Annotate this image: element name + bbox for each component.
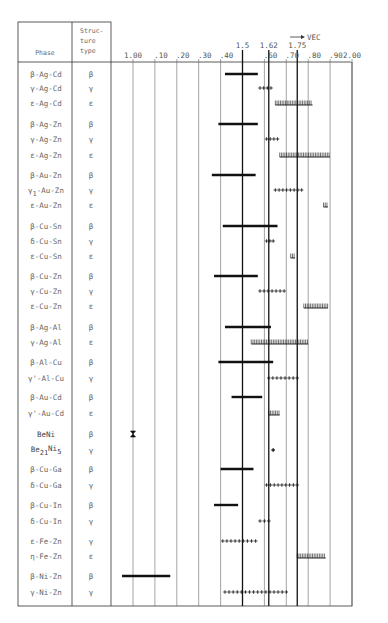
structure-type-label: β — [89, 70, 94, 79]
header-structure-type: Struc- — [80, 27, 103, 35]
phase-label: γ-Cu-Zn — [30, 287, 62, 296]
tick-label: .90 — [329, 51, 343, 60]
structure-type-label: β — [89, 323, 94, 332]
header-structure-type: type — [80, 47, 96, 55]
phase-label: γ-Ag-Al — [30, 338, 62, 347]
tick-label: .10 — [154, 51, 168, 60]
phase-label: β-Ag-Zn — [30, 120, 62, 129]
phase-label: ε-Ag-Cd — [30, 99, 62, 108]
phase-label: ε-Ag-Zn — [30, 151, 62, 160]
phase-label: ε-Fe-Zn — [30, 537, 62, 546]
phase-label: δ-Cu-Sn — [30, 237, 62, 246]
phase-label: ε-Cu-Sn — [30, 252, 62, 261]
structure-type-label: γ — [89, 186, 94, 195]
structure-type-label: γ — [89, 537, 94, 546]
structure-type-label: γ — [89, 287, 94, 296]
table-frame — [18, 21, 353, 606]
epsilon-range-hatch — [275, 101, 312, 106]
structure-type-label: β — [89, 393, 94, 402]
tick-label: 2.00 — [343, 51, 362, 60]
table-header: PhaseStruc-turetype — [35, 27, 103, 57]
gamma-range-plus — [267, 376, 299, 380]
structure-type-label: ε — [89, 409, 94, 418]
arrow-head-icon — [301, 35, 305, 39]
header-phase: Phase — [35, 49, 55, 57]
structure-type-label: β — [89, 430, 94, 439]
structure-type-label: γ — [89, 135, 94, 144]
structure-type-label: β — [89, 272, 94, 281]
structure-type-label: ε — [89, 151, 94, 160]
epsilon-range-hatch — [269, 411, 280, 416]
structure-type-label: β — [89, 501, 94, 510]
phase-label: γ1-Au-Zn — [28, 186, 64, 198]
gamma-range-plus — [258, 519, 270, 523]
gamma-range-plus — [223, 590, 288, 594]
phase-label: β-Ag-Cd — [30, 70, 62, 79]
gamma-range-plus — [258, 289, 286, 293]
phase-label: β-Cu-Sn — [30, 222, 62, 231]
phase-label: β-Au-Zn — [30, 171, 62, 180]
structure-type-label: γ — [89, 446, 94, 455]
structure-type-label: ε — [89, 338, 94, 347]
structure-type-label: ε — [89, 201, 94, 210]
phase-label: β-Cu-In — [30, 501, 62, 510]
tick-label: .40 — [220, 51, 234, 60]
tick-label: 1.00 — [124, 51, 143, 60]
vec-range-chart: 1.00.10.20.30.40.60.70.80.902.001.51.621… — [0, 0, 388, 623]
phase-label: BeNi — [37, 430, 55, 439]
phase-label: δ-Cu-In — [30, 517, 62, 526]
header-structure-type: ture — [80, 37, 96, 45]
phase-label: β-Al-Cu — [30, 358, 62, 367]
epsilon-range-hatch — [280, 153, 330, 158]
phase-label: β-Au-Cd — [30, 393, 62, 402]
axis-label: VEC — [307, 33, 321, 42]
table-border — [18, 22, 352, 606]
structure-type-label: ε — [89, 302, 94, 311]
tick-label: .60 — [264, 51, 278, 60]
gamma-range-plus — [265, 239, 275, 243]
structure-type-label: γ — [89, 481, 94, 490]
gamma-range-plus — [265, 137, 280, 141]
reference-label: 1.62 — [260, 41, 278, 50]
phase-label: γ'-Al-Cu — [28, 374, 64, 383]
structure-type-label: β — [89, 572, 94, 581]
phase-label: Be21Ni5 — [31, 444, 62, 457]
phase-label: γ-Ni-Zn — [30, 588, 62, 597]
phase-label: ε-Cu-Zn — [30, 302, 62, 311]
phase-label: β-Cu-Ga — [30, 465, 62, 474]
epsilon-range-hatch — [251, 340, 308, 345]
structure-type-label: ε — [89, 252, 94, 261]
epsilon-range-hatch — [291, 254, 295, 259]
phase-label: γ-Ag-Cd — [30, 84, 62, 93]
epsilon-range-hatch — [297, 554, 325, 559]
structure-type-label: β — [89, 171, 94, 180]
range-markers — [122, 74, 330, 594]
phase-label: β-Ni-Zn — [30, 572, 62, 581]
epsilon-range-hatch — [324, 203, 328, 208]
phase-label: ε-Au-Zn — [30, 201, 62, 210]
reference-label: 1.75 — [288, 41, 306, 50]
structure-type-label: γ — [89, 237, 94, 246]
gamma-range-plus — [258, 86, 273, 90]
structure-type-label: β — [89, 120, 94, 129]
structure-type-label: ε — [89, 99, 94, 108]
phase-label: γ'-Au-Cd — [28, 409, 64, 418]
epsilon-range-hatch — [304, 304, 328, 309]
structure-type-label: γ — [89, 374, 94, 383]
phase-label: β-Cu-Zn — [30, 272, 62, 281]
tick-label: .30 — [198, 51, 212, 60]
reference-label: 1.5 — [236, 41, 250, 50]
phase-label: γ-Ag-Zn — [30, 135, 62, 144]
tick-label: .20 — [176, 51, 190, 60]
structure-type-label: γ — [89, 84, 94, 93]
point-marker-icon — [131, 431, 136, 437]
structure-type-label: ε — [89, 552, 94, 561]
tick-label: .80 — [307, 51, 321, 60]
phase-label: β-Ag-Al — [30, 323, 62, 332]
phase-rows: β-Ag-Cdβγ-Ag-Cdγε-Ag-Cdεβ-Ag-Znβγ-Ag-Znγ… — [28, 70, 94, 597]
structure-type-label: β — [89, 358, 94, 367]
phase-label: δ-Cu-Ga — [30, 481, 62, 490]
gamma-range-plus — [271, 448, 275, 452]
phase-label: η-Fe-Zn — [30, 552, 62, 561]
tick-label: .70 — [286, 51, 300, 60]
